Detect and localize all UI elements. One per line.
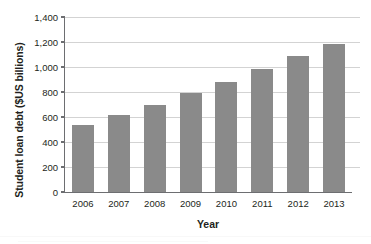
y-axis-tick-mark <box>61 191 65 192</box>
y-axis-tick-label: 1,200 <box>34 37 58 48</box>
y-axis-tick-label: 1,400 <box>34 12 58 23</box>
y-axis-tick-label: 0 <box>53 187 58 198</box>
bar <box>323 44 345 192</box>
bar <box>215 82 237 192</box>
y-axis-tick-mark <box>61 166 65 167</box>
y-axis-tick-label: 1,000 <box>34 62 58 73</box>
x-axis-title: Year <box>64 218 352 230</box>
x-axis-tick-label: 2011 <box>252 198 272 209</box>
bar <box>72 125 94 192</box>
x-axis-tick-label: 2007 <box>108 198 129 209</box>
x-axis-tick-label: 2009 <box>180 198 201 209</box>
y-axis-tick-mark <box>61 16 65 17</box>
y-axis-tick-mark <box>61 66 65 67</box>
y-axis-title: Student loan debt ($US billions) <box>8 22 30 218</box>
gridline <box>65 67 360 68</box>
bar <box>251 69 273 192</box>
plot-area: 02004006008001,0001,2001,400200620072008… <box>64 17 352 193</box>
gridline <box>65 42 360 43</box>
bar <box>180 93 202 192</box>
scan-artifact <box>18 241 208 242</box>
bar-chart-figure: Student loan debt ($US billions) 0200400… <box>0 0 371 244</box>
y-axis-tick-mark <box>61 116 65 117</box>
scan-artifact <box>0 236 371 237</box>
y-axis-tick-mark <box>61 91 65 92</box>
x-axis-tick-label: 2008 <box>144 198 165 209</box>
gridline <box>65 92 360 93</box>
x-axis-tick-label: 2006 <box>72 198 93 209</box>
bar <box>287 56 309 192</box>
y-axis-tick-label: 200 <box>42 162 58 173</box>
y-axis-tick-label: 800 <box>42 87 58 98</box>
gridline <box>65 17 360 18</box>
x-axis-tick-label: 2010 <box>216 198 237 209</box>
y-axis-tick-mark <box>61 141 65 142</box>
y-axis-tick-label: 600 <box>42 112 58 123</box>
x-axis-tick-label: 2013 <box>323 198 344 209</box>
y-axis-tick-mark <box>61 41 65 42</box>
bar <box>108 115 130 192</box>
bar <box>144 105 166 192</box>
x-axis-tick-label: 2012 <box>288 198 309 209</box>
y-axis-tick-label: 400 <box>42 137 58 148</box>
